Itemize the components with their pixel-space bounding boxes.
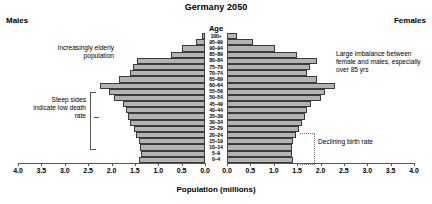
- x-axis-title: Population (millions): [0, 185, 432, 194]
- female-bar: [227, 157, 293, 163]
- steep-sides-bracket-pointer: [94, 117, 99, 118]
- x-axis-tick: [274, 163, 275, 166]
- x-axis-tick: [205, 163, 206, 166]
- male-bar: [139, 157, 205, 163]
- population-pyramid-chart: Germany 2050 Males Females Age 100+95–99…: [0, 0, 432, 204]
- x-axis-tick: [227, 163, 228, 166]
- x-axis-tick-label: 1.5: [130, 167, 140, 174]
- age-group-label: 0–4: [205, 156, 227, 162]
- x-axis-tick-label: 3.5: [386, 167, 396, 174]
- x-axis-tick-label: 4.0: [13, 167, 23, 174]
- center-rule-right: [227, 33, 228, 163]
- x-axis-tick: [367, 163, 368, 166]
- annotation-elderly: Increasingly elderly population: [28, 44, 114, 60]
- x-axis: 4.04.03.53.53.03.02.52.52.02.01.51.51.01…: [0, 163, 432, 181]
- x-axis-tick: [112, 163, 113, 166]
- x-axis-tick: [182, 163, 183, 166]
- x-axis-tick-label: 0.0: [222, 167, 232, 174]
- x-axis-tick-label: 2.5: [83, 167, 93, 174]
- x-axis-tick-label: 3.5: [37, 167, 47, 174]
- x-axis-tick: [250, 163, 251, 166]
- x-axis-tick: [158, 163, 159, 166]
- declining-birth-rate-bracket: [300, 133, 315, 165]
- annotation-imbalance: Large imbalance between female and males…: [336, 50, 432, 75]
- page-title: Germany 2050: [0, 2, 432, 12]
- x-axis-tick: [344, 163, 345, 166]
- annotation-declining-birth-rate: Declining birth rate: [318, 138, 388, 146]
- x-axis-tick: [321, 163, 322, 166]
- x-axis-tick-label: 2.0: [107, 167, 117, 174]
- x-axis-tick: [414, 163, 415, 166]
- annotation-steep-sides: Steep sides indicate low death rate: [30, 96, 86, 121]
- x-axis-tick-label: 3.0: [362, 167, 372, 174]
- x-axis-tick: [297, 163, 298, 166]
- x-axis-tick-label: 4.0: [409, 167, 419, 174]
- pyramid-row: 0–4: [0, 157, 432, 163]
- x-axis-tick-label: 2.5: [339, 167, 349, 174]
- x-axis-tick-label: 0.5: [246, 167, 256, 174]
- x-axis-tick-label: 1.0: [153, 167, 163, 174]
- x-axis-tick-label: 0.0: [200, 167, 210, 174]
- steep-sides-bracket: [90, 92, 96, 150]
- x-axis-tick-label: 2.0: [316, 167, 326, 174]
- x-axis-tick: [391, 163, 392, 166]
- x-axis-tick: [135, 163, 136, 166]
- x-axis-tick-label: 1.0: [269, 167, 279, 174]
- x-axis-tick: [88, 163, 89, 166]
- x-axis-tick: [65, 163, 66, 166]
- x-axis-tick-label: 0.5: [177, 167, 187, 174]
- x-axis-tick-label: 1.5: [292, 167, 302, 174]
- x-axis-tick: [41, 163, 42, 166]
- x-axis-tick-label: 3.0: [60, 167, 70, 174]
- x-axis-tick: [18, 163, 19, 166]
